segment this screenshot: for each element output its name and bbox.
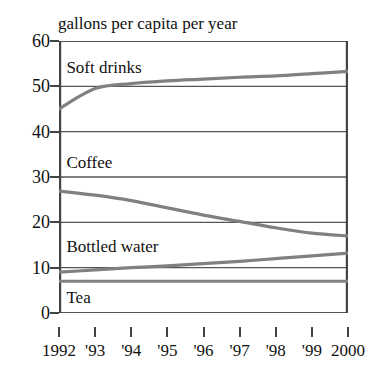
y-axis-tick-mark [50,131,59,133]
x-axis-tick-label: '94 [121,341,141,361]
series-label-coffee: Coffee [66,153,112,173]
series-label-soft-drinks: Soft drinks [66,58,141,78]
x-axis-tick-label: 1992 [42,341,76,361]
chart-title: gallons per capita per year [58,14,237,34]
x-axis-tick-mark [347,327,349,337]
y-axis-tick-label: 10 [32,257,50,278]
x-axis-tick-label: '95 [157,341,177,361]
plot-svg [59,41,348,313]
x-axis-tick-mark [239,327,241,337]
x-axis-tick-label: '98 [266,341,286,361]
y-axis-tick-mark [50,267,59,269]
x-axis-tick-mark [166,327,168,337]
series-label-bottled-water: Bottled water [66,237,158,257]
x-axis-tick-label: '99 [302,341,322,361]
y-axis-tick-labels: 0102030405060 [0,41,50,313]
x-axis-tick-mark [275,327,277,337]
x-axis-tick-label: '93 [85,341,105,361]
x-axis-tick-mark [311,327,313,337]
x-axis-tick-mark [203,327,205,337]
y-axis-tick-mark [50,221,59,223]
x-axis-tick-mark [58,327,60,337]
y-axis-tick-mark [50,176,59,178]
x-axis-tick-labels: 1992'93'94'95'96'97'98'992000 [0,327,387,357]
x-axis-tick-label: '96 [193,341,213,361]
y-axis-tick-label: 60 [32,31,50,52]
x-axis-tick-label: 2000 [331,341,365,361]
y-axis-tick-label: 20 [32,212,50,233]
x-axis-tick-label: '97 [230,341,250,361]
y-axis-tick-label: 40 [32,121,50,142]
y-axis-tick-mark [50,85,59,87]
series-line-coffee [59,191,348,236]
y-axis-tick-label: 0 [41,303,50,324]
y-axis-tick-mark [50,40,59,42]
y-axis-tick-label: 50 [32,76,50,97]
plot-area [59,41,348,313]
y-axis-tick-label: 30 [32,167,50,188]
line-chart: gallons per capita per year 010203040506… [0,0,387,366]
x-axis-tick-mark [94,327,96,337]
x-axis-tick-mark [130,327,132,337]
y-axis-tick-mark [50,312,59,314]
series-label-tea: Tea [66,288,90,308]
